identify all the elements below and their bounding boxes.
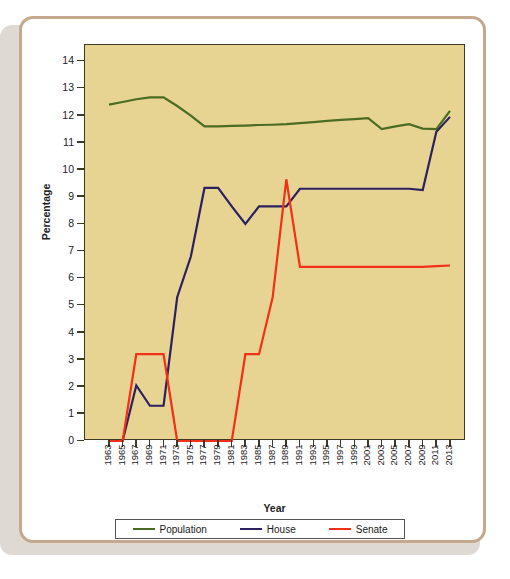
x-axis-tick-label: 1973 bbox=[170, 435, 181, 475]
x-axis-tick-label: 1997 bbox=[334, 435, 345, 475]
y-axis-tick-mark bbox=[77, 412, 84, 414]
y-axis-tick-label: 3 bbox=[68, 353, 74, 365]
y-axis-tick-mark bbox=[77, 331, 84, 333]
x-axis-tick-label: 1963 bbox=[102, 435, 113, 475]
y-axis-tick-label: 9 bbox=[68, 190, 74, 202]
x-axis-tick-label: 1967 bbox=[129, 435, 140, 475]
y-axis-tick-mark bbox=[77, 250, 84, 252]
y-axis-tick-label: 13 bbox=[62, 81, 74, 93]
legend-label: Population bbox=[160, 524, 207, 535]
y-axis-tick-label: 8 bbox=[68, 217, 74, 229]
y-axis-tick-mark bbox=[77, 60, 84, 62]
y-axis-tick-label: 5 bbox=[68, 298, 74, 310]
x-axis-tick-label: 1971 bbox=[157, 435, 168, 475]
y-axis-tick-mark bbox=[77, 195, 84, 197]
x-axis: 1963196519671969197119731975197719791981… bbox=[84, 440, 465, 502]
x-axis-tick-label: 1983 bbox=[238, 435, 249, 475]
legend-item-senate[interactable]: Senate bbox=[329, 524, 388, 535]
y-axis-tick-mark bbox=[77, 385, 84, 387]
x-axis-tick-label: 1999 bbox=[348, 435, 359, 475]
y-axis-tick-label: 0 bbox=[68, 434, 74, 446]
y-axis-tick-label: 7 bbox=[68, 244, 74, 256]
y-axis-tick-mark bbox=[77, 168, 84, 170]
y-axis-tick-mark bbox=[77, 87, 84, 89]
y-axis-tick-mark bbox=[77, 440, 84, 442]
x-axis-tick-label: 1977 bbox=[197, 435, 208, 475]
y-axis-tick-mark bbox=[77, 358, 84, 360]
line-chart-figure: 01234567891011121314 Percentage 19631965… bbox=[19, 16, 486, 543]
plot-panel bbox=[84, 44, 465, 440]
x-axis-title: Year bbox=[84, 502, 465, 514]
x-axis-tick-label: 2007 bbox=[402, 435, 413, 475]
y-axis-tick-label: 11 bbox=[63, 136, 74, 148]
y-axis-tick-label: 2 bbox=[68, 380, 74, 392]
legend-item-population[interactable]: Population bbox=[133, 524, 207, 535]
x-axis-tick-label: 1975 bbox=[184, 435, 195, 475]
chart-legend: PopulationHouseSenate bbox=[115, 519, 405, 539]
x-axis-tick-label: 1981 bbox=[225, 435, 236, 475]
y-axis-tick-mark bbox=[77, 277, 84, 279]
legend-label: House bbox=[267, 524, 296, 535]
x-axis-tick-label: 2005 bbox=[388, 435, 399, 475]
y-axis-tick-label: 10 bbox=[62, 163, 74, 175]
legend-item-house[interactable]: House bbox=[240, 524, 296, 535]
x-axis-tick-label: 1985 bbox=[252, 435, 263, 475]
x-axis-tick-label: 1979 bbox=[211, 435, 222, 475]
legend-swatch-icon bbox=[240, 528, 262, 531]
y-axis-tick-label: 14 bbox=[62, 54, 74, 66]
x-axis-tick-label: 2013 bbox=[443, 435, 454, 475]
legend-label: Senate bbox=[356, 524, 388, 535]
legend-swatch-icon bbox=[329, 528, 351, 531]
page-root: 01234567891011121314 Percentage 19631965… bbox=[0, 0, 510, 579]
x-axis-tick-label: 1969 bbox=[143, 435, 154, 475]
x-axis-tick-label: 2001 bbox=[361, 435, 372, 475]
series-line-population bbox=[109, 97, 450, 129]
x-axis-tick-label: 1989 bbox=[279, 435, 290, 475]
x-axis-tick-label: 1987 bbox=[266, 435, 277, 475]
x-axis-tick-label: 1995 bbox=[320, 435, 331, 475]
y-axis-tick-label: 1 bbox=[68, 407, 74, 419]
y-axis-tick-label: 12 bbox=[62, 109, 74, 121]
legend-swatch-icon bbox=[133, 528, 155, 531]
y-axis-tick-mark bbox=[77, 223, 84, 225]
x-axis-tick-label: 1993 bbox=[307, 435, 318, 475]
x-axis-tick-label: 1991 bbox=[293, 435, 304, 475]
series-layer bbox=[85, 45, 466, 441]
x-axis-tick-label: 1965 bbox=[116, 435, 127, 475]
series-line-senate bbox=[109, 179, 450, 441]
series-line-house bbox=[109, 117, 450, 441]
x-axis-tick-label: 2011 bbox=[429, 435, 440, 475]
y-axis-tick-label: 6 bbox=[68, 271, 74, 283]
y-axis-tick-mark bbox=[77, 304, 84, 306]
x-axis-tick-label: 2003 bbox=[375, 435, 386, 475]
y-axis-tick-label: 4 bbox=[68, 326, 74, 338]
x-axis-tick-label: 2009 bbox=[416, 435, 427, 475]
y-axis-title: Percentage bbox=[40, 167, 52, 257]
y-axis-tick-mark bbox=[77, 141, 84, 143]
y-axis-tick-mark bbox=[77, 114, 84, 116]
